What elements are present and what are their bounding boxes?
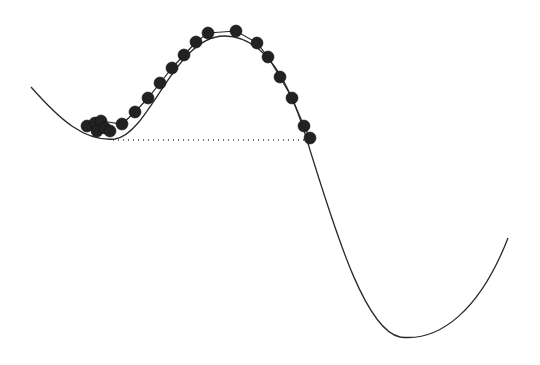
bead — [154, 77, 166, 89]
bead-chain — [81, 25, 316, 144]
bead — [251, 37, 263, 49]
potential-curve-diagram — [0, 0, 540, 365]
bead — [304, 132, 316, 144]
bead — [202, 27, 214, 39]
potential-curve — [31, 36, 508, 338]
bead — [129, 106, 141, 118]
bead — [262, 51, 274, 63]
bead — [116, 118, 128, 130]
bead — [104, 125, 116, 137]
bead — [298, 120, 310, 132]
bead — [142, 92, 154, 104]
bead — [166, 62, 178, 74]
bead — [286, 92, 298, 104]
bead — [230, 25, 242, 37]
bead — [190, 36, 202, 48]
bead — [274, 71, 286, 83]
bead — [178, 49, 190, 61]
